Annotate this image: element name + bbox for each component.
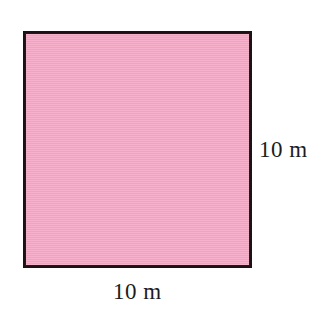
geometry-figure: 10 m 10 m <box>0 0 320 309</box>
dimension-label-right-side: 10 m <box>259 138 308 161</box>
shaded-square-shape <box>23 31 252 268</box>
dimension-label-bottom-side: 10 m <box>113 280 162 303</box>
